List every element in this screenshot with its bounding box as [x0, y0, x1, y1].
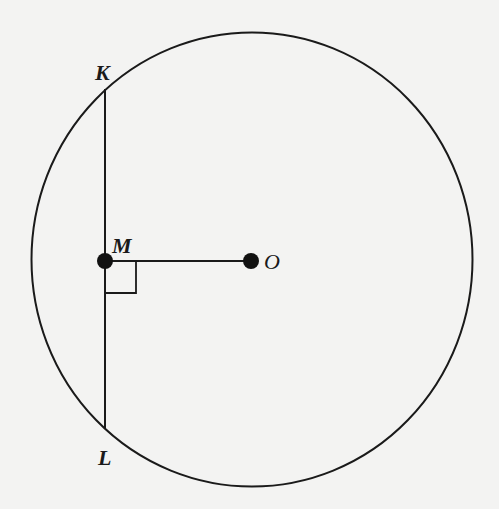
diagram-canvas: K M O L: [0, 0, 499, 509]
label-o: O: [264, 251, 280, 273]
point-o: [243, 253, 259, 269]
point-m: [97, 253, 113, 269]
label-l: L: [98, 447, 111, 469]
geometry-figure: [0, 0, 499, 509]
label-m: M: [112, 235, 132, 257]
label-k: K: [95, 62, 110, 84]
